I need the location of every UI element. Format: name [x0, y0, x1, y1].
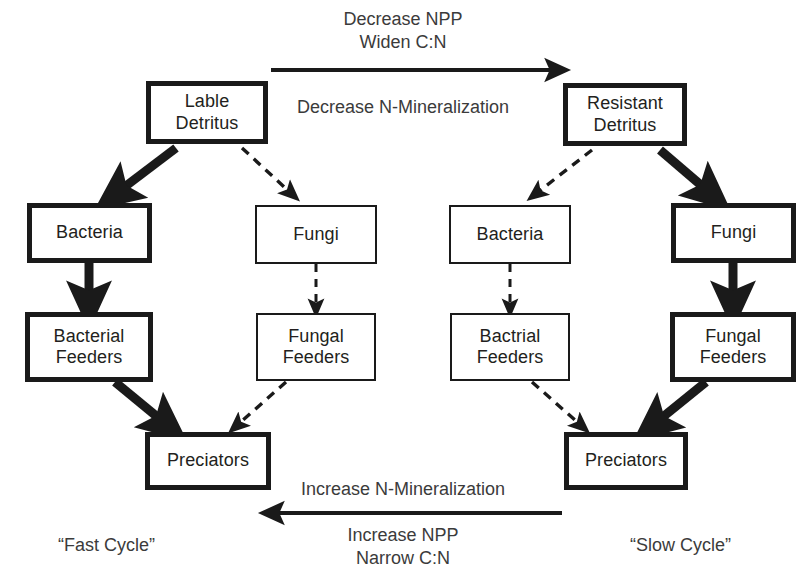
arrow-fast-fungal-feeders-to-predators [234, 382, 286, 428]
arrow-resistant-to-slow-fungi [660, 150, 716, 198]
node-fast-predators-label: Preciators [167, 450, 249, 471]
node-fast-bacteria[interactable]: Bacteria [27, 203, 152, 263]
node-slow-bacteria[interactable]: Bacteria [449, 205, 571, 264]
arrow-fast-bacterial-feeders-to-predators [115, 382, 172, 429]
annotation-increase-n-mineralization: Increase N-Mineralization [283, 478, 523, 501]
annotation-bottom-line2: Narrow C:N [283, 547, 523, 570]
soil-food-web-diagram: Decrease NPP Widen C:N Decrease N-Minera… [0, 0, 806, 584]
arrow-resistant-to-slow-bacteria [533, 150, 592, 196]
annotation-decrease-n-mineralization: Decrease N-Mineralization [283, 96, 523, 119]
arrow-slow-bacterial-feeders-to-predators [532, 382, 584, 428]
node-labile-detritus-line2: Detritus [176, 113, 239, 134]
node-slow-fungal-feeders[interactable]: Fungal Feeders [670, 312, 796, 382]
node-slow-predators-label: Preciators [585, 450, 667, 471]
node-slow-fungal-feeders-line1: Fungal [700, 326, 767, 347]
label-fast-cycle: “Fast Cycle” [58, 535, 155, 556]
node-resistant-detritus-line2: Detritus [587, 115, 663, 136]
annotation-top-line2: Widen C:N [283, 31, 523, 54]
node-fast-fungal-feeders-line1: Fungal [283, 326, 350, 347]
node-resistant-detritus-line1: Resistant [587, 93, 663, 114]
annotation-top-decrease-npp: Decrease NPP Widen C:N [283, 8, 523, 53]
node-fast-predators[interactable]: Preciators [145, 432, 271, 490]
node-fast-fungal-feeders-line2: Feeders [283, 347, 350, 368]
node-fast-fungal-feeders[interactable]: Fungal Feeders [256, 313, 376, 381]
annotation-top-line1: Decrease NPP [283, 8, 523, 31]
node-fast-bacterial-feeders[interactable]: Bacterial Feeders [25, 312, 153, 382]
node-slow-bacterial-feeders-line1: Bactrial [477, 326, 544, 347]
node-fast-bacterial-feeders-line1: Bacterial [54, 326, 125, 347]
node-slow-fungi[interactable]: Fungi [671, 203, 796, 263]
node-labile-detritus-line1: Lable [176, 91, 239, 112]
node-slow-bacterial-feeders-line2: Feeders [477, 347, 544, 368]
annotation-bottom-increase-npp: Increase NPP Narrow C:N [283, 524, 523, 569]
node-fast-bacteria-label: Bacteria [56, 222, 123, 243]
node-labile-detritus[interactable]: Lable Detritus [146, 81, 268, 144]
node-slow-fungal-feeders-line2: Feeders [700, 347, 767, 368]
node-slow-predators[interactable]: Preciators [564, 432, 688, 490]
node-slow-bacterial-feeders[interactable]: Bactrial Feeders [450, 313, 570, 381]
node-resistant-detritus[interactable]: Resistant Detritus [563, 83, 687, 146]
arrow-labile-to-fast-bacteria [110, 148, 176, 198]
node-slow-fungi-label: Fungi [711, 222, 757, 243]
arrow-labile-to-fast-fungi [242, 148, 294, 196]
arrow-slow-fungal-feeders-to-predators [648, 382, 706, 429]
annotation-bottom-line1: Increase NPP [283, 524, 523, 547]
label-slow-cycle: “Slow Cycle” [630, 535, 731, 556]
node-slow-bacteria-label: Bacteria [477, 224, 544, 245]
node-fast-fungi-label: Fungi [293, 224, 339, 245]
node-fast-fungi[interactable]: Fungi [255, 205, 377, 264]
node-fast-bacterial-feeders-line2: Feeders [54, 347, 125, 368]
